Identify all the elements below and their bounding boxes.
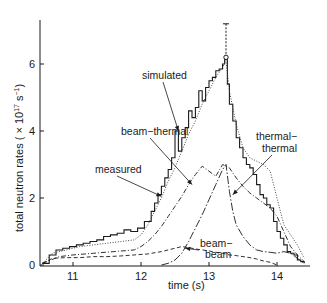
neutron-rate-chart: 0246 11121314 simulated beam−thermal mea… [0, 0, 327, 303]
label-beam-beam-line2: beam [205, 248, 232, 260]
x-tick-label: 13 [203, 270, 215, 282]
y-ticks: 0246 [29, 58, 44, 271]
series-thermal-thermal [161, 165, 304, 266]
arrow-line [233, 155, 272, 195]
label-thermal-thermal-line2: thermal [262, 142, 297, 154]
y-tick-label: 2 [29, 192, 35, 204]
y-axis-label-exp: 17 [13, 104, 20, 112]
y-axis-label-close: ) [13, 84, 25, 88]
y-tick-label: 4 [29, 125, 35, 137]
arrow-line [117, 176, 161, 196]
x-tick-label: 14 [271, 270, 283, 282]
y-axis-label-unit-exp: −1 [13, 87, 20, 95]
y-tick-label: 0 [29, 259, 35, 271]
x-axis-label: time (s) [168, 279, 205, 291]
x-tick-label: 11 [67, 270, 78, 282]
y-tick-label: 6 [29, 58, 35, 70]
label-measured: measured [95, 163, 142, 175]
peak-circle [224, 55, 228, 59]
y-axis-label: total neutron rates ( × 1017 s−1) [13, 84, 25, 232]
series-group [42, 57, 304, 265]
peak-marker [223, 24, 229, 60]
arrow-line [163, 82, 178, 131]
series-measured [42, 57, 304, 263]
series-beam-beam [42, 247, 277, 265]
label-beam-thermal: beam−thermal [121, 125, 188, 137]
label-thermal-thermal-line1: thermal− [256, 130, 297, 142]
label-simulated: simulated [142, 69, 187, 81]
y-axis-label-main: total neutron rates ( × 10 [13, 112, 25, 232]
x-tick-label: 12 [135, 270, 147, 282]
arrow-line [150, 138, 192, 185]
